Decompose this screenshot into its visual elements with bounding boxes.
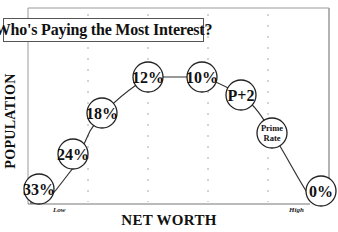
svg-text:18%: 18% (86, 105, 118, 122)
y-axis-label: POPULATION (2, 66, 20, 176)
svg-text:Prime: Prime (261, 123, 283, 133)
node-12: 12% (132, 62, 164, 92)
svg-text:12%: 12% (132, 69, 164, 86)
svg-text:24%: 24% (57, 146, 89, 163)
svg-text:10%: 10% (186, 69, 218, 86)
svg-text:0%: 0% (309, 183, 333, 200)
x-axis-label: NET WORTH (0, 212, 338, 229)
svg-text:P+2: P+2 (228, 87, 255, 104)
node-18: 18% (86, 98, 118, 128)
chart-title-box: Who's Paying the Most Interest? (3, 18, 204, 42)
y-axis-label-text: POPULATION (3, 73, 19, 168)
node-33: 33% (23, 174, 55, 204)
node-p-plus-2: P+2 (226, 80, 256, 110)
chart-title: Who's Paying the Most Interest? (0, 21, 212, 39)
svg-text:33%: 33% (23, 181, 55, 198)
rate-nodes: 33% 24% 18% 12% 10% P+2 Prime Rate (23, 62, 336, 206)
node-24: 24% (57, 139, 89, 169)
node-10: 10% (186, 62, 218, 92)
svg-text:Rate: Rate (264, 133, 281, 143)
node-prime-rate: Prime Rate (257, 118, 287, 148)
node-0: 0% (306, 176, 336, 206)
